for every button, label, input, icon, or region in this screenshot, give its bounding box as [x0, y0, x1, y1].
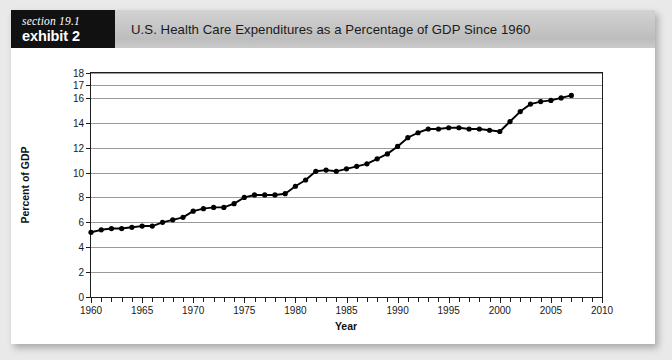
data-point	[467, 126, 472, 131]
x-tick-minor	[101, 297, 102, 302]
x-tick-major	[347, 297, 348, 303]
data-point	[375, 156, 380, 161]
data-point	[109, 226, 114, 231]
data-point	[129, 225, 134, 230]
data-point	[405, 135, 410, 140]
x-tick-label: 2005	[540, 305, 562, 316]
data-point	[569, 93, 574, 98]
x-tick-minor	[571, 297, 572, 302]
data-point	[313, 169, 318, 174]
data-point	[99, 227, 104, 232]
y-axis-title: Percent of GDP	[19, 146, 31, 223]
x-tick-minor	[367, 297, 368, 302]
y-tick-label: 4	[78, 242, 84, 253]
series-markers	[88, 93, 574, 235]
x-tick-label: 1990	[386, 305, 408, 316]
section-label: section 19.1	[22, 15, 115, 28]
x-tick-minor	[561, 297, 562, 302]
y-tick-label: 8	[78, 192, 84, 203]
data-point	[538, 99, 543, 104]
x-tick-minor	[111, 297, 112, 302]
x-tick-major	[142, 297, 143, 303]
x-tick-major	[398, 297, 399, 303]
data-point	[385, 151, 390, 156]
data-point	[252, 192, 257, 197]
x-tick-minor	[234, 297, 235, 302]
x-tick-minor	[132, 297, 133, 302]
x-tick-label: 1980	[284, 305, 306, 316]
x-tick-minor	[336, 297, 337, 302]
plot-frame: 02468101214161718 1960196519701975198019…	[90, 72, 603, 298]
exhibit-tag: section 19.1 exhibit 2	[11, 10, 115, 48]
data-point	[477, 126, 482, 131]
x-tick-minor	[224, 297, 225, 302]
exhibit-title-bar: U.S. Health Care Expenditures as a Perce…	[115, 10, 655, 48]
x-tick-minor	[479, 297, 480, 302]
x-tick-major	[91, 297, 92, 303]
data-point	[426, 126, 431, 131]
x-tick-label: 1960	[80, 305, 102, 316]
data-point	[303, 177, 308, 182]
x-tick-minor	[203, 297, 204, 302]
data-point	[221, 205, 226, 210]
y-tick-label: 12	[73, 142, 84, 153]
x-tick-minor	[265, 297, 266, 302]
data-point	[272, 192, 277, 197]
series-line-chart	[91, 73, 602, 297]
data-point	[191, 209, 196, 214]
x-tick-minor	[326, 297, 327, 302]
x-tick-minor	[438, 297, 439, 302]
x-tick-minor	[163, 297, 164, 302]
x-tick-label: 1965	[131, 305, 153, 316]
data-point	[395, 144, 400, 149]
x-tick-minor	[255, 297, 256, 302]
y-tick-label: 0	[78, 292, 84, 303]
x-tick-minor	[592, 297, 593, 302]
data-point	[487, 128, 492, 133]
x-tick-label: 2010	[591, 305, 613, 316]
exhibit-header: section 19.1 exhibit 2 U.S. Health Care …	[11, 10, 655, 48]
data-point	[231, 201, 236, 206]
data-point	[293, 184, 298, 189]
data-point	[559, 95, 564, 100]
x-tick-major	[500, 297, 501, 303]
data-point	[548, 98, 553, 103]
data-point	[446, 125, 451, 130]
data-point	[364, 161, 369, 166]
data-point	[201, 206, 206, 211]
y-tick-label: 10	[73, 167, 84, 178]
x-tick-minor	[357, 297, 358, 302]
x-tick-minor	[173, 297, 174, 302]
x-tick-major	[193, 297, 194, 303]
data-point	[211, 205, 216, 210]
x-tick-minor	[122, 297, 123, 302]
x-tick-minor	[582, 297, 583, 302]
y-tick-label: 2	[78, 267, 84, 278]
data-point	[497, 129, 502, 134]
x-tick-minor	[377, 297, 378, 302]
x-tick-label: 1985	[335, 305, 357, 316]
x-tick-label: 1995	[438, 305, 460, 316]
x-axis-title: Year	[335, 320, 357, 332]
data-point	[150, 223, 155, 228]
x-tick-major	[244, 297, 245, 303]
y-tick-label: 6	[78, 217, 84, 228]
x-tick-major	[551, 297, 552, 303]
data-point	[354, 164, 359, 169]
series-polyline	[91, 95, 571, 232]
x-tick-minor	[459, 297, 460, 302]
x-tick-minor	[418, 297, 419, 302]
x-tick-minor	[510, 297, 511, 302]
y-tick-label: 16	[73, 92, 84, 103]
x-tick-minor	[408, 297, 409, 302]
data-point	[518, 109, 523, 114]
y-tick-label: 14	[73, 117, 84, 128]
x-tick-minor	[541, 297, 542, 302]
data-point	[334, 169, 339, 174]
x-tick-major	[449, 297, 450, 303]
data-point	[344, 166, 349, 171]
x-tick-minor	[275, 297, 276, 302]
x-tick-minor	[214, 297, 215, 302]
data-point	[262, 192, 267, 197]
data-point	[436, 126, 441, 131]
